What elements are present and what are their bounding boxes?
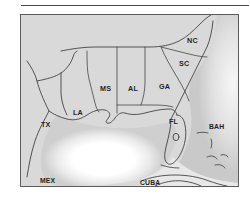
map-label-fl: FL: [169, 118, 178, 125]
map-label-nc: NC: [187, 37, 198, 44]
map-label-la: LA: [73, 109, 83, 116]
top-horizontal-rule: [21, 5, 249, 6]
map-figure: NC SC GA AL MS LA TX FL BAH MEX CUBA: [0, 0, 250, 197]
map-label-al: AL: [128, 85, 138, 92]
map-frame: NC SC GA AL MS LA TX FL BAH MEX CUBA: [20, 14, 239, 187]
map-label-ms: MS: [100, 85, 111, 92]
map-label-sc: SC: [179, 60, 189, 67]
map-label-ga: GA: [159, 83, 170, 90]
map-label-bah: BAH: [209, 124, 224, 131]
map-label-mex: MEX: [40, 178, 55, 185]
map-label-tx: TX: [41, 121, 51, 128]
map-graphic: [21, 15, 238, 186]
map-label-cuba: CUBA: [140, 180, 160, 187]
